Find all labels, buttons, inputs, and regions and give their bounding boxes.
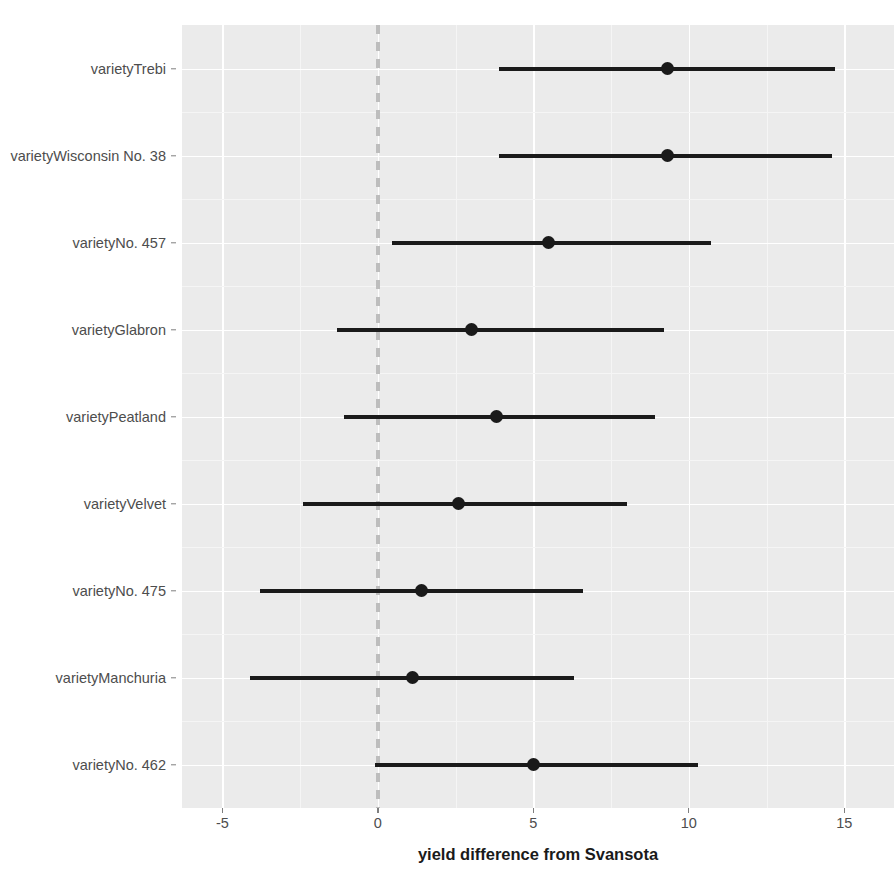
- gridline-minor-horizontal: [182, 112, 894, 113]
- y-axis-tick-mark: [171, 329, 176, 330]
- plot-panel: [182, 25, 894, 808]
- y-axis-tick-mark: [171, 503, 176, 504]
- x-axis-tick-mark: [688, 808, 689, 813]
- y-axis-tick-mark: [171, 242, 176, 243]
- point-estimate-marker: [406, 671, 419, 684]
- y-axis-tick-label-3: varietyGlabron: [72, 322, 166, 338]
- gridline-minor-horizontal: [182, 721, 894, 722]
- gridline-minor-horizontal: [182, 373, 894, 374]
- confidence-interval-line: [337, 328, 663, 332]
- y-axis: varietyTrebivarietyWisconsin No. 38varie…: [0, 25, 176, 808]
- point-estimate-marker: [490, 410, 503, 423]
- y-axis-tick-mark: [171, 68, 176, 69]
- x-axis-tick-label-2: 5: [529, 815, 537, 831]
- x-axis-tick-mark: [844, 808, 845, 813]
- point-estimate-marker: [661, 149, 674, 162]
- point-estimate-marker: [527, 758, 540, 771]
- y-axis-tick-mark: [171, 764, 176, 765]
- gridline-minor-horizontal: [182, 634, 894, 635]
- x-axis-tick-mark: [377, 808, 378, 813]
- gridline-minor-horizontal: [182, 286, 894, 287]
- y-axis-tick-mark: [171, 155, 176, 156]
- x-axis-tick-label-0: -5: [216, 815, 229, 831]
- y-axis-tick-label-8: varietyNo. 462: [73, 757, 167, 773]
- gridline-minor-horizontal: [182, 460, 894, 461]
- x-axis-tick-label-1: 0: [374, 815, 382, 831]
- point-estimate-marker: [465, 323, 478, 336]
- y-axis-tick-label-5: varietyVelvet: [84, 496, 166, 512]
- y-axis-tick-label-1: varietyWisconsin No. 38: [10, 148, 166, 164]
- x-axis-title: yield difference from Svansota: [182, 845, 894, 864]
- y-axis-tick-label-7: varietyManchuria: [56, 670, 166, 686]
- y-axis-tick-label-4: varietyPeatland: [66, 409, 166, 425]
- x-axis-tick-mark: [533, 808, 534, 813]
- x-axis-tick-label-4: 15: [836, 815, 852, 831]
- x-axis-tick-mark: [222, 808, 223, 813]
- y-axis-tick-mark: [171, 416, 176, 417]
- y-axis-tick-mark: [171, 677, 176, 678]
- gridline-minor-horizontal: [182, 547, 894, 548]
- point-estimate-marker: [542, 236, 555, 249]
- point-estimate-marker: [661, 62, 674, 75]
- y-axis-tick-label-2: varietyNo. 457: [73, 235, 167, 251]
- forest-plot-figure: varietyTrebivarietyWisconsin No. 38varie…: [0, 0, 894, 889]
- point-estimate-marker: [415, 584, 428, 597]
- y-axis-tick-mark: [171, 590, 176, 591]
- x-axis: -5051015: [182, 808, 894, 848]
- y-axis-tick-label-0: varietyTrebi: [91, 61, 166, 77]
- x-axis-tick-label-3: 10: [681, 815, 697, 831]
- y-axis-tick-label-6: varietyNo. 475: [73, 583, 167, 599]
- point-estimate-marker: [452, 497, 465, 510]
- gridline-minor-horizontal: [182, 199, 894, 200]
